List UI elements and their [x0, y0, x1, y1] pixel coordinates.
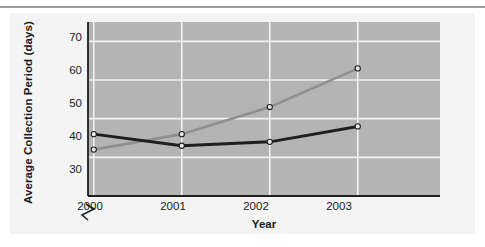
data-point-industry-2001[interactable]: [179, 143, 184, 148]
data-point-compton-2001[interactable]: [179, 132, 184, 137]
data-point-industry-2000[interactable]: [91, 132, 96, 137]
data-point-compton-2002[interactable]: [267, 104, 272, 109]
plot-canvas: [0, 0, 485, 247]
data-point-compton-2003[interactable]: [355, 66, 360, 71]
data-point-compton-2000[interactable]: [91, 147, 96, 152]
data-point-industry-2002[interactable]: [267, 139, 272, 144]
data-point-industry-2003[interactable]: [355, 124, 360, 129]
chart-figure: Average Collection Period (days) Year 70…: [0, 0, 485, 247]
y-axis-break-icon: [82, 204, 94, 220]
